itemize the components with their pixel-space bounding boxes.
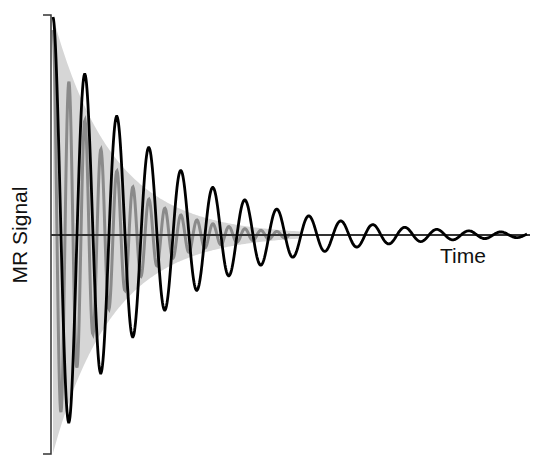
x-axis-label: Time (440, 244, 486, 268)
slow-decay-wave (53, 17, 527, 422)
y-axis (43, 15, 51, 454)
mr-signal-plot (0, 0, 556, 472)
y-axis-label: MR Signal (8, 187, 32, 284)
